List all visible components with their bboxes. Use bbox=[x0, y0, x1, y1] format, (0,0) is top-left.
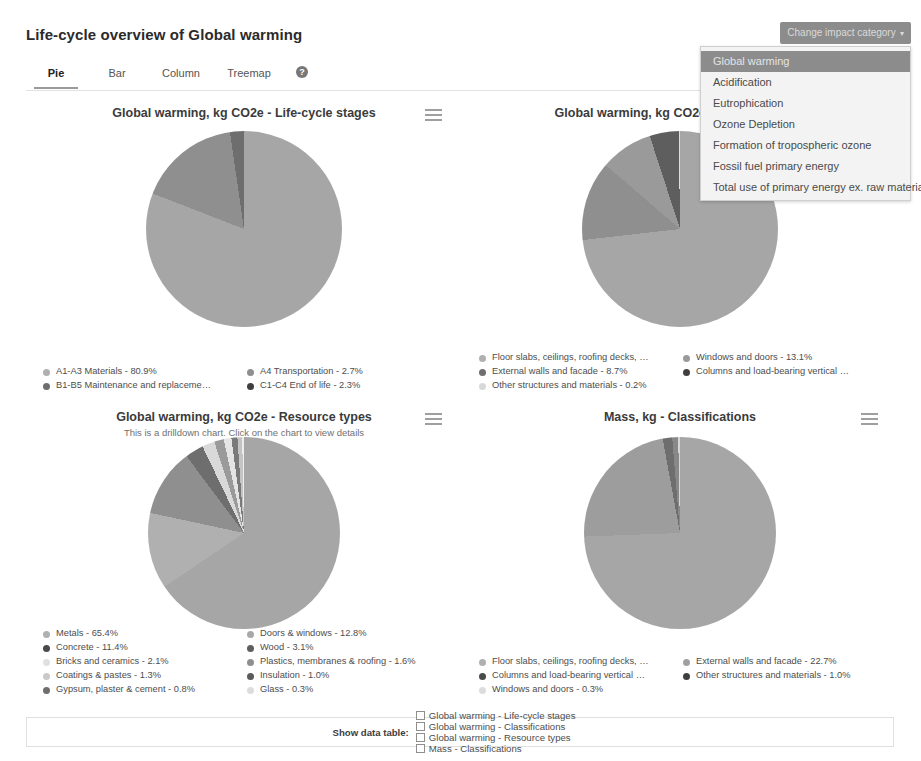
legend-color-dot bbox=[479, 355, 486, 362]
legend-item[interactable]: Windows and doors - 13.1% bbox=[680, 351, 884, 365]
legend-item[interactable]: Other structures and materials - 0.2% bbox=[476, 379, 680, 393]
change-impact-category-label: Change impact category bbox=[787, 27, 895, 38]
legend-label: Doors & windows - 12.8% bbox=[260, 627, 366, 640]
legend-label: Plastics, membranes & roofing - 1.6% bbox=[260, 655, 416, 668]
data-table-checkbox-option[interactable]: Mass - Classifications bbox=[416, 743, 576, 754]
legend-item[interactable]: A4 Transportation - 2.7% bbox=[244, 365, 448, 379]
legend-color-dot bbox=[247, 631, 254, 638]
legend-item[interactable]: Gypsum, plaster & cement - 0.8% bbox=[40, 683, 244, 697]
legend-item[interactable]: Insulation - 1.0% bbox=[244, 669, 448, 683]
impact-menu-item[interactable]: Ozone Depletion bbox=[701, 114, 910, 135]
legend-item[interactable]: External walls and facade - 8.7% bbox=[476, 365, 680, 379]
tab-pie[interactable]: Pie bbox=[26, 60, 86, 88]
checkbox-icon[interactable] bbox=[416, 711, 425, 720]
legend-label: Coatings & pastes - 1.3% bbox=[56, 669, 161, 682]
impact-menu-item[interactable]: Acidification bbox=[701, 72, 910, 93]
legend-label: Insulation - 1.0% bbox=[260, 669, 329, 682]
legend-color-dot bbox=[247, 383, 254, 390]
impact-menu-item[interactable]: Global warming bbox=[701, 51, 910, 72]
legend-color-dot bbox=[247, 645, 254, 652]
legend-color-dot bbox=[683, 659, 690, 666]
legend-item[interactable]: A1-A3 Materials - 80.9% bbox=[40, 365, 244, 379]
page-title: Life-cycle overview of Global warming bbox=[26, 26, 302, 43]
legend-color-dot bbox=[247, 659, 254, 666]
impact-menu-item[interactable]: Total use of primary energy ex. raw mate… bbox=[701, 177, 910, 198]
chart-context-menu-icon[interactable] bbox=[425, 109, 442, 124]
pie-chart[interactable] bbox=[146, 131, 342, 327]
pie-chart[interactable] bbox=[148, 437, 340, 629]
legend-color-dot bbox=[43, 659, 50, 666]
show-data-table-label: Show data table: bbox=[333, 727, 409, 738]
chart-context-menu-icon[interactable] bbox=[861, 413, 878, 428]
data-table-option-label: Global warming - Classifications bbox=[429, 721, 566, 732]
legend-color-dot bbox=[479, 369, 486, 376]
legend-label: Floor slabs, ceilings, roofing decks, … bbox=[492, 351, 649, 364]
legend-label: Other structures and materials - 0.2% bbox=[492, 379, 647, 392]
chart-panel-lifecycle-stages: Global warming, kg CO2e - Life-cycle sta… bbox=[26, 97, 462, 401]
checkbox-icon[interactable] bbox=[416, 722, 425, 731]
legend-item[interactable]: Glass - 0.3% bbox=[244, 683, 448, 697]
legend-item[interactable]: B1-B5 Maintenance and replaceme… bbox=[40, 379, 244, 393]
legend-color-dot bbox=[247, 369, 254, 376]
legend-item[interactable]: Coatings & pastes - 1.3% bbox=[40, 669, 244, 683]
legend-color-dot bbox=[43, 673, 50, 680]
data-table-options: Global warming - Life-cycle stagesGlobal… bbox=[416, 710, 588, 754]
help-icon[interactable]: ? bbox=[296, 66, 308, 78]
data-table-checkbox-option[interactable]: Global warming - Resource types bbox=[416, 732, 576, 743]
chart-context-menu-icon[interactable] bbox=[425, 413, 442, 428]
legend-label: External walls and facade - 22.7% bbox=[696, 655, 837, 668]
chart-legend: Metals - 65.4%Doors & windows - 12.8%Con… bbox=[26, 627, 462, 697]
legend-item[interactable]: Plastics, membranes & roofing - 1.6% bbox=[244, 655, 448, 669]
legend-color-dot bbox=[479, 659, 486, 666]
legend-label: Columns and load-bearing vertical … bbox=[696, 365, 849, 378]
chart-legend: Floor slabs, ceilings, roofing decks, …W… bbox=[462, 351, 898, 393]
tab-treemap[interactable]: Treemap bbox=[214, 60, 284, 88]
pie-area[interactable] bbox=[462, 427, 898, 639]
legend-color-dot bbox=[479, 687, 486, 694]
legend-label: Windows and doors - 13.1% bbox=[696, 351, 812, 364]
legend-item[interactable]: Doors & windows - 12.8% bbox=[244, 627, 448, 641]
impact-category-menu[interactable]: Global warmingAcidificationEutrophicatio… bbox=[700, 46, 911, 201]
pie-chart[interactable] bbox=[584, 437, 776, 629]
checkbox-icon[interactable] bbox=[416, 744, 425, 753]
legend-label: A1-A3 Materials - 80.9% bbox=[56, 365, 157, 378]
data-table-option-label: Mass - Classifications bbox=[429, 743, 522, 754]
chart-legend: Floor slabs, ceilings, roofing decks, …E… bbox=[462, 655, 898, 697]
legend-item[interactable]: Floor slabs, ceilings, roofing decks, … bbox=[476, 655, 680, 669]
legend-label: C1-C4 End of life - 2.3% bbox=[260, 379, 360, 392]
tab-column[interactable]: Column bbox=[148, 60, 214, 88]
legend-label: Columns and load-bearing vertical … bbox=[492, 669, 645, 682]
legend-color-dot bbox=[683, 673, 690, 680]
legend-color-dot bbox=[683, 355, 690, 362]
impact-menu-item[interactable]: Formation of tropospheric ozone bbox=[701, 135, 910, 156]
legend-item[interactable]: Metals - 65.4% bbox=[40, 627, 244, 641]
legend-label: Metals - 65.4% bbox=[56, 627, 118, 640]
legend-item[interactable]: Columns and load-bearing vertical … bbox=[680, 365, 884, 379]
legend-item[interactable]: Other structures and materials - 1.0% bbox=[680, 669, 884, 683]
legend-label: A4 Transportation - 2.7% bbox=[260, 365, 363, 378]
impact-menu-item[interactable]: Eutrophication bbox=[701, 93, 910, 114]
chart-title: Global warming, kg CO2e - Life-cycle sta… bbox=[26, 106, 462, 120]
legend-item[interactable]: Concrete - 11.4% bbox=[40, 641, 244, 655]
legend-item[interactable]: Wood - 3.1% bbox=[244, 641, 448, 655]
legend-label: Other structures and materials - 1.0% bbox=[696, 669, 851, 682]
legend-item[interactable]: Floor slabs, ceilings, roofing decks, … bbox=[476, 351, 680, 365]
pie-area[interactable] bbox=[26, 123, 462, 335]
legend-label: Floor slabs, ceilings, roofing decks, … bbox=[492, 655, 649, 668]
legend-item[interactable]: C1-C4 End of life - 2.3% bbox=[244, 379, 448, 393]
legend-label: B1-B5 Maintenance and replaceme… bbox=[56, 379, 211, 392]
legend-color-dot bbox=[43, 687, 50, 694]
legend-item[interactable]: External walls and facade - 22.7% bbox=[680, 655, 884, 669]
data-table-checkbox-option[interactable]: Global warming - Classifications bbox=[416, 721, 576, 732]
checkbox-icon[interactable] bbox=[416, 733, 425, 742]
legend-color-dot bbox=[479, 673, 486, 680]
data-table-checkbox-option[interactable]: Global warming - Life-cycle stages bbox=[416, 710, 576, 721]
change-impact-category-button[interactable]: Change impact category▾ bbox=[780, 22, 911, 44]
tab-bar[interactable]: Bar bbox=[86, 60, 148, 88]
legend-item[interactable]: Bricks and ceramics - 2.1% bbox=[40, 655, 244, 669]
legend-item[interactable]: Columns and load-bearing vertical … bbox=[476, 669, 680, 683]
pie-area[interactable] bbox=[26, 427, 462, 639]
legend-item[interactable]: Windows and doors - 0.3% bbox=[476, 683, 680, 697]
chart-legend: A1-A3 Materials - 80.9%A4 Transportation… bbox=[26, 365, 462, 393]
impact-menu-item[interactable]: Fossil fuel primary energy bbox=[701, 156, 910, 177]
